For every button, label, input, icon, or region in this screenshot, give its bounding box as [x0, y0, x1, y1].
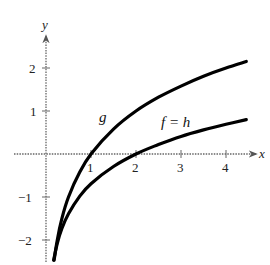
y-tick-label-2: 2	[29, 61, 36, 76]
x-tick-label-4: 4	[222, 160, 229, 175]
curve-f-equals-h	[54, 120, 247, 261]
chart: 1 2 3 4 2 1 −1 −2 x y g f = h	[0, 0, 270, 265]
x-axis-label: x	[258, 146, 265, 161]
x-tick-label-2: 2	[132, 160, 139, 175]
x-tick-label-3: 3	[177, 160, 184, 175]
curve-label-g: g	[99, 109, 107, 125]
y-tick-label-1: 1	[30, 104, 37, 119]
curve-g	[54, 62, 246, 261]
x-tick-label-1: 1	[87, 160, 94, 175]
y-axis-label: y	[40, 17, 48, 32]
curve-label-f-equals-h: f = h	[161, 114, 190, 130]
y-tick-label-m1: −1	[18, 190, 32, 205]
y-tick-label-m2: −2	[18, 233, 32, 248]
